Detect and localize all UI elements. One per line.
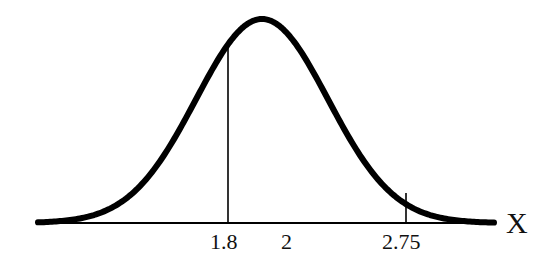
- x-axis-label: X: [506, 208, 528, 238]
- normal-curve-chart: [0, 0, 559, 266]
- tick-label-2-75: 2.75: [382, 231, 421, 253]
- tick-label-1-8: 1.8: [210, 231, 238, 253]
- bell-curve: [38, 19, 494, 223]
- tick-label-2: 2: [281, 231, 292, 253]
